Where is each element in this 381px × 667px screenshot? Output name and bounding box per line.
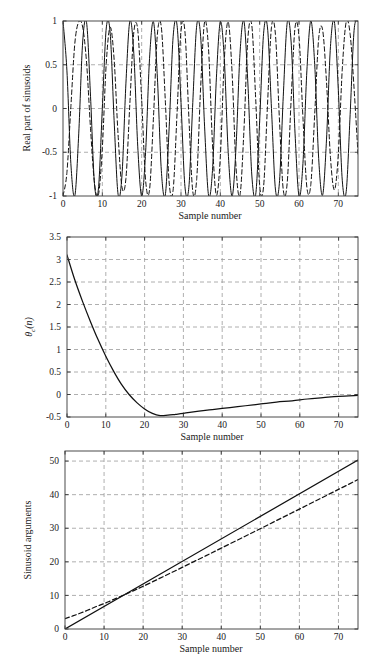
x-tick-label: 40 bbox=[217, 632, 227, 642]
series-line-dashed bbox=[65, 480, 358, 619]
panel-2-y-tick-labels: -0.500.511.522.533.5 bbox=[46, 232, 61, 422]
x-tick-label: 30 bbox=[179, 420, 189, 430]
x-tick-label: 40 bbox=[216, 199, 226, 209]
y-tick-label: 50 bbox=[50, 456, 60, 466]
panel-3-y-tick-labels: 01020304050 bbox=[50, 456, 60, 634]
x-tick-label: 20 bbox=[140, 420, 150, 430]
chart-panel-theta-c-n: 010203040506070 -0.500.511.522.533.5 Sam… bbox=[0, 228, 381, 446]
y-tick-label: 1.5 bbox=[49, 322, 61, 332]
panel-3-gridlines bbox=[65, 451, 358, 629]
y-tick-label: -1 bbox=[49, 191, 57, 201]
x-tick-label: 0 bbox=[63, 632, 68, 642]
x-tick-label: 20 bbox=[138, 632, 148, 642]
x-tick-label: 10 bbox=[98, 199, 108, 209]
panel-2-x-tick-labels: 010203040506070 bbox=[65, 420, 344, 430]
panel-2-gridlines bbox=[67, 237, 358, 417]
x-tick-label: 70 bbox=[334, 420, 344, 430]
panel-2-series bbox=[67, 255, 358, 416]
x-tick-label: 60 bbox=[295, 420, 305, 430]
panel-3-y-axis-title: Sinusoid arguments bbox=[22, 500, 33, 579]
panel-2-y-axis-title: θc(n) bbox=[23, 316, 37, 336]
panel-1-svg: 010203040506070 -1-0.500.51 Sample numbe… bbox=[0, 0, 381, 228]
panel-3-x-tick-labels: 010203040506070 bbox=[63, 632, 344, 642]
panel-1-x-tick-labels: 010203040506070 bbox=[61, 199, 344, 209]
y-tick-label: 0 bbox=[52, 104, 57, 114]
chart-panel-real-part-of-sinusoids: 010203040506070 -1-0.500.51 Sample numbe… bbox=[0, 0, 381, 228]
x-tick-label: 60 bbox=[294, 199, 304, 209]
x-tick-label: 70 bbox=[334, 199, 344, 209]
panel-3-series bbox=[65, 460, 358, 629]
y-tick-label: 0 bbox=[56, 390, 61, 400]
y-tick-label: -0.5 bbox=[42, 147, 57, 157]
x-tick-label: 0 bbox=[61, 199, 66, 209]
y-tick-label: 0.5 bbox=[45, 60, 57, 70]
panel-3-tick-marks bbox=[65, 451, 358, 629]
x-tick-label: 30 bbox=[176, 199, 186, 209]
y-tick-label: 40 bbox=[50, 490, 60, 500]
series-line-solid bbox=[67, 255, 358, 416]
x-tick-label: 10 bbox=[99, 632, 109, 642]
panel-1-x-axis-title: Sample number bbox=[178, 210, 242, 221]
panel-2-y-axis-title-tail: (n) bbox=[23, 316, 35, 328]
series-line-solid bbox=[65, 460, 358, 629]
x-tick-label: 40 bbox=[217, 420, 227, 430]
y-tick-label: 10 bbox=[50, 591, 60, 601]
x-tick-label: 20 bbox=[137, 199, 147, 209]
y-tick-label: 3 bbox=[56, 255, 61, 265]
x-tick-label: 50 bbox=[256, 632, 266, 642]
panel-2-svg: 010203040506070 -0.500.511.522.533.5 Sam… bbox=[0, 228, 381, 446]
panel-3-svg: 010203040506070 01020304050 Sample numbe… bbox=[0, 446, 381, 667]
y-tick-label: 1 bbox=[52, 16, 57, 26]
x-tick-label: 70 bbox=[334, 632, 344, 642]
chart-panel-sinusoid-arguments: 010203040506070 01020304050 Sample numbe… bbox=[0, 446, 381, 667]
x-tick-label: 50 bbox=[255, 199, 265, 209]
x-tick-label: 10 bbox=[101, 420, 111, 430]
figure-three-panel-sinusoid-plots: 010203040506070 -1-0.500.51 Sample numbe… bbox=[0, 0, 381, 667]
panel-3-axes-frame bbox=[65, 451, 358, 629]
y-tick-label: 20 bbox=[50, 557, 60, 567]
y-tick-label: 1 bbox=[56, 345, 61, 355]
y-tick-label: -0.5 bbox=[46, 412, 61, 422]
x-tick-label: 50 bbox=[256, 420, 266, 430]
svg-text:θc(n): θc(n) bbox=[23, 316, 37, 336]
y-tick-label: 0 bbox=[54, 624, 59, 634]
y-tick-label: 0.5 bbox=[49, 367, 61, 377]
y-tick-label: 2 bbox=[56, 300, 61, 310]
x-tick-label: 0 bbox=[65, 420, 70, 430]
panel-1-y-axis-title: Real part of sinusoids bbox=[21, 64, 32, 151]
y-tick-label: 2.5 bbox=[49, 277, 61, 287]
y-tick-label: 30 bbox=[50, 523, 60, 533]
y-tick-label: 3.5 bbox=[49, 232, 61, 242]
panel-2-x-axis-title: Sample number bbox=[180, 431, 244, 442]
x-tick-label: 30 bbox=[177, 632, 187, 642]
x-tick-label: 60 bbox=[295, 632, 305, 642]
panel-3-x-axis-title: Sample number bbox=[179, 643, 243, 654]
panel-1-y-tick-labels: -1-0.500.51 bbox=[42, 16, 57, 201]
